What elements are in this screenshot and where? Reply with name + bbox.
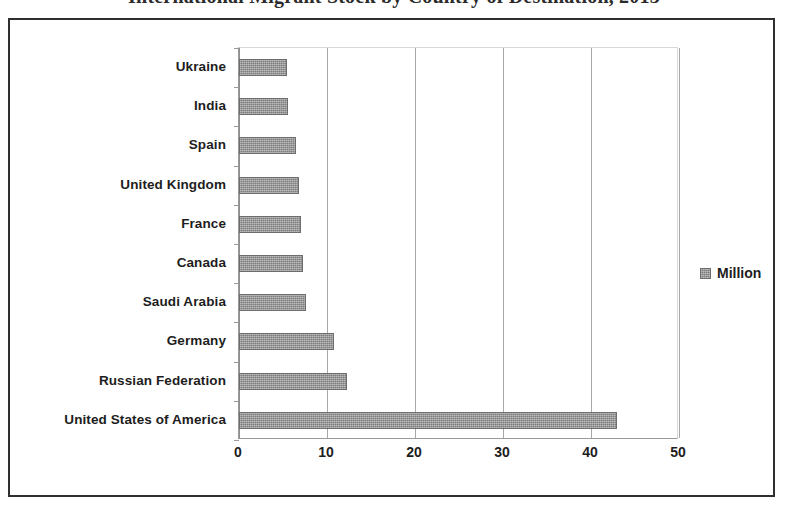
category-label: Spain	[10, 125, 232, 164]
y-axis-tick	[234, 87, 239, 88]
bar-row	[239, 48, 677, 87]
category-label: Germany	[10, 321, 232, 360]
x-axis-tick-label: 40	[582, 444, 598, 460]
category-label: India	[10, 86, 232, 125]
y-axis-tick	[234, 283, 239, 284]
category-label: Ukraine	[10, 47, 232, 86]
plot-area	[238, 47, 678, 439]
y-axis-tick	[234, 362, 239, 363]
category-axis-labels: UkraineIndiaSpainUnited KingdomFranceCan…	[10, 47, 232, 439]
bar	[239, 177, 299, 194]
bar-row	[239, 244, 677, 283]
y-axis-tick	[234, 401, 239, 402]
category-label: United States of America	[10, 400, 232, 439]
x-axis-tick-labels: 01020304050	[238, 444, 678, 470]
category-label: France	[10, 204, 232, 243]
legend-label-million: Million	[717, 265, 761, 281]
chart-frame: UkraineIndiaSpainUnited KingdomFranceCan…	[8, 18, 775, 497]
bar	[239, 137, 296, 154]
bar-row	[239, 362, 677, 401]
x-axis-tick-label: 30	[494, 444, 510, 460]
category-label: United Kingdom	[10, 165, 232, 204]
x-axis-tick-label: 10	[318, 444, 334, 460]
gridline-50	[679, 48, 680, 438]
bar	[239, 98, 288, 115]
bar-row	[239, 401, 677, 440]
y-axis-tick	[234, 126, 239, 127]
bar-row	[239, 205, 677, 244]
chart-legend: Million	[700, 265, 761, 281]
y-axis-tick	[234, 166, 239, 167]
bar-row	[239, 87, 677, 126]
bar	[239, 216, 301, 233]
bar	[239, 412, 617, 429]
chart-title-strip: International Migrant Stock by Country o…	[0, 0, 788, 17]
y-axis-tick	[234, 205, 239, 206]
y-axis-tick	[234, 322, 239, 323]
chart-title: International Migrant Stock by Country o…	[0, 0, 788, 8]
category-label: Saudi Arabia	[10, 282, 232, 321]
bar	[239, 59, 287, 76]
bar-series-million	[239, 48, 677, 438]
bar	[239, 294, 306, 311]
bar-row	[239, 126, 677, 165]
bar	[239, 255, 303, 272]
x-axis-tick-label: 0	[234, 444, 242, 460]
y-axis-tick	[234, 48, 239, 49]
x-axis-tick-label: 50	[670, 444, 686, 460]
bar-row	[239, 283, 677, 322]
y-axis-tick	[234, 244, 239, 245]
legend-swatch-million	[700, 268, 711, 279]
bar	[239, 333, 334, 350]
bar	[239, 373, 347, 390]
x-axis-tick-label: 20	[406, 444, 422, 460]
bar-row	[239, 322, 677, 361]
bar-row	[239, 166, 677, 205]
category-label: Canada	[10, 243, 232, 282]
category-label: Russian Federation	[10, 361, 232, 400]
y-axis-tick	[234, 440, 239, 441]
